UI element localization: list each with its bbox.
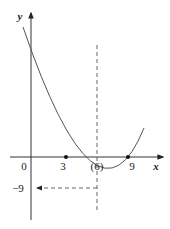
x-tick-6: (6) xyxy=(91,161,104,172)
x-axis-label: x xyxy=(153,161,159,172)
root-point-9 xyxy=(126,155,130,159)
x-tick-3: 3 xyxy=(60,161,66,172)
parabola-curve xyxy=(23,27,144,168)
root-point-3 xyxy=(64,155,68,159)
y-axis-label: y xyxy=(18,11,23,22)
parabola-graph xyxy=(0,0,170,229)
y-tick-minus-9: −9 xyxy=(12,183,24,194)
x-tick-9: 9 xyxy=(129,161,135,172)
origin-label: 0 xyxy=(21,161,27,172)
